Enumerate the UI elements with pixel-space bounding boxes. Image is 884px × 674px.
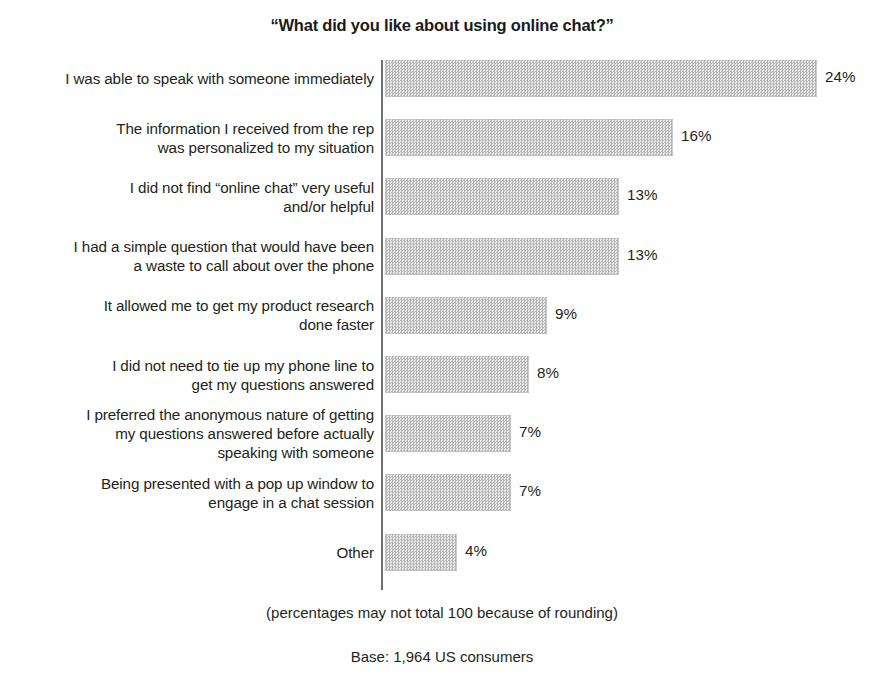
- bar: [385, 238, 619, 275]
- bar: [385, 415, 511, 452]
- bar-category-label: I was able to speak with someone immedia…: [14, 69, 374, 88]
- bar-category-label: Other: [14, 543, 374, 562]
- bar-category-label: It allowed me to get my product research…: [14, 296, 374, 334]
- bar: [385, 297, 547, 334]
- bar-row: I had a simple question that would have …: [0, 235, 884, 293]
- bar: [385, 356, 529, 393]
- bar: [385, 534, 457, 571]
- bar-row: It allowed me to get my product research…: [0, 294, 884, 352]
- bar-value-label: 24%: [825, 67, 855, 86]
- bar-row: I was able to speak with someone immedia…: [0, 57, 884, 115]
- bar: [385, 119, 673, 156]
- footnote-rounding: (percentages may not total 100 because o…: [0, 604, 884, 621]
- bar-row: The information I received from the rep …: [0, 116, 884, 174]
- footnote-base: Base: 1,964 US consumers: [0, 648, 884, 665]
- chart-title: “What did you like about using online ch…: [0, 16, 884, 35]
- bar-value-label: 16%: [681, 126, 711, 145]
- bar-category-label: I did not need to tie up my phone line t…: [14, 356, 374, 394]
- bar: [385, 474, 511, 511]
- bar-category-label: Being presented with a pop up window to …: [14, 474, 374, 512]
- bar: [385, 178, 619, 215]
- bar-category-label: I had a simple question that would have …: [14, 237, 374, 275]
- bar-category-label: I preferred the anonymous nature of gett…: [14, 405, 374, 462]
- chart-container: “What did you like about using online ch…: [0, 0, 884, 674]
- bar-category-label: The information I received from the rep …: [14, 119, 374, 157]
- bar-row: I did not need to tie up my phone line t…: [0, 353, 884, 411]
- bar-value-label: 13%: [627, 185, 657, 204]
- bar-value-label: 4%: [465, 541, 487, 560]
- bar-row: Other4%: [0, 531, 884, 589]
- bar-category-label: I did not find “online chat” very useful…: [14, 178, 374, 216]
- bar-value-label: 13%: [627, 245, 657, 264]
- bar-value-label: 7%: [519, 422, 541, 441]
- bar-value-label: 7%: [519, 481, 541, 500]
- bar-value-label: 8%: [537, 363, 559, 382]
- bar: [385, 60, 817, 97]
- plot-area: I was able to speak with someone immedia…: [0, 57, 884, 592]
- bar-value-label: 9%: [555, 304, 577, 323]
- bar-row: I did not find “online chat” very useful…: [0, 175, 884, 233]
- bar-row: Being presented with a pop up window to …: [0, 471, 884, 529]
- bar-row: I preferred the anonymous nature of gett…: [0, 412, 884, 470]
